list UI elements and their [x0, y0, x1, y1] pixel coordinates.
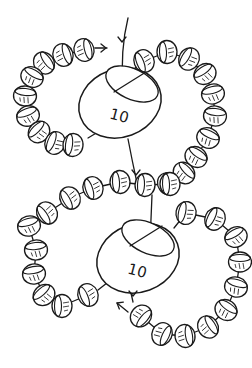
seed-bead	[80, 174, 106, 202]
seed-bead	[221, 223, 251, 252]
seed-bead	[72, 36, 97, 63]
seed-bead	[202, 105, 227, 127]
large-bead-1: 10	[69, 57, 171, 150]
seed-bead	[126, 301, 156, 331]
seed-bead	[62, 132, 84, 157]
seed-bead	[148, 319, 176, 348]
seed-bead	[201, 204, 229, 233]
seed-bead	[156, 40, 177, 64]
seed-bead	[109, 170, 130, 194]
seed-bead	[222, 274, 250, 300]
seed-bead	[199, 82, 226, 107]
beading-diagram: 1010	[0, 0, 252, 368]
lower-left-loop	[15, 213, 102, 317]
seed-bead	[13, 85, 38, 107]
seed-bead	[21, 262, 47, 286]
arrow-entry-icon	[118, 37, 126, 42]
seed-bead	[174, 200, 198, 227]
seed-bead	[173, 323, 196, 349]
seed-bead	[160, 172, 181, 196]
seed-bead	[24, 239, 49, 261]
seed-bead	[229, 252, 252, 272]
seed-bead	[52, 295, 72, 318]
seed-bead	[56, 183, 85, 213]
arrow-mid-icon	[132, 170, 140, 175]
large-bead-2: 10	[87, 212, 189, 305]
seed-bead	[74, 281, 101, 310]
seed-bead	[135, 173, 156, 197]
